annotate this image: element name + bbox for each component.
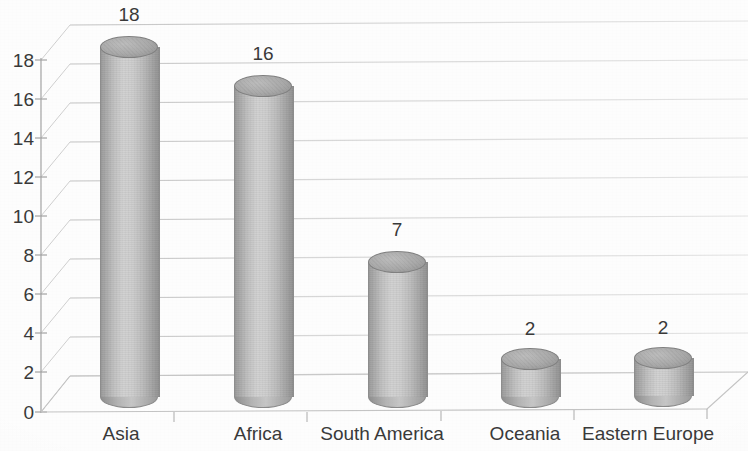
bar-africa [234, 75, 292, 408]
y-tick-label: 0 [0, 403, 34, 422]
bar-south-america [368, 251, 426, 408]
y-tick-label: 6 [0, 285, 34, 304]
bar-value-label-oceania: 2 [525, 318, 536, 340]
x-tick-label-africa: Africa [234, 423, 283, 445]
y-axis-tick-labels: 18 16 14 12 10 8 6 4 2 0 [0, 0, 34, 451]
y-tick-label: 8 [0, 246, 34, 265]
bar-value-label-south-america: 7 [392, 219, 403, 241]
bar-top-ellipse [368, 251, 426, 273]
bar-oceania [501, 348, 559, 408]
x-tick-label-south-america: South America [320, 423, 444, 445]
y-tick-label: 4 [0, 324, 34, 343]
bar-top-ellipse [100, 36, 158, 58]
x-tick-label-eastern-europe: Eastern Europe [582, 423, 714, 445]
bar-top-ellipse [501, 348, 559, 370]
y-tick-label: 18 [0, 51, 34, 70]
y-tick-label: 12 [0, 168, 34, 187]
bar-body [100, 47, 160, 397]
y-tick-label: 16 [0, 90, 34, 109]
bar-eastern-europe [634, 347, 692, 407]
bar-body [234, 86, 294, 397]
y-tick-label: 14 [0, 129, 34, 148]
bar-top-ellipse [234, 75, 292, 97]
bar-body [368, 262, 428, 397]
bar-top-ellipse [634, 347, 692, 369]
chart-figure: 18 16 14 12 10 8 6 4 2 0 18 [0, 0, 748, 451]
bar-value-label-eastern-europe: 2 [658, 317, 669, 339]
y-tick-label: 10 [0, 207, 34, 226]
x-axis-tick-labels: Asia Africa South America Oceania Easter… [0, 423, 748, 451]
y-tick-label: 2 [0, 363, 34, 382]
bar-asia [100, 36, 158, 408]
bar-value-label-africa: 16 [252, 43, 273, 65]
x-tick-label-oceania: Oceania [490, 423, 561, 445]
x-tick-label-asia: Asia [103, 423, 140, 445]
perspective-depth-lines [41, 25, 70, 412]
bar-value-label-asia: 18 [118, 4, 139, 26]
